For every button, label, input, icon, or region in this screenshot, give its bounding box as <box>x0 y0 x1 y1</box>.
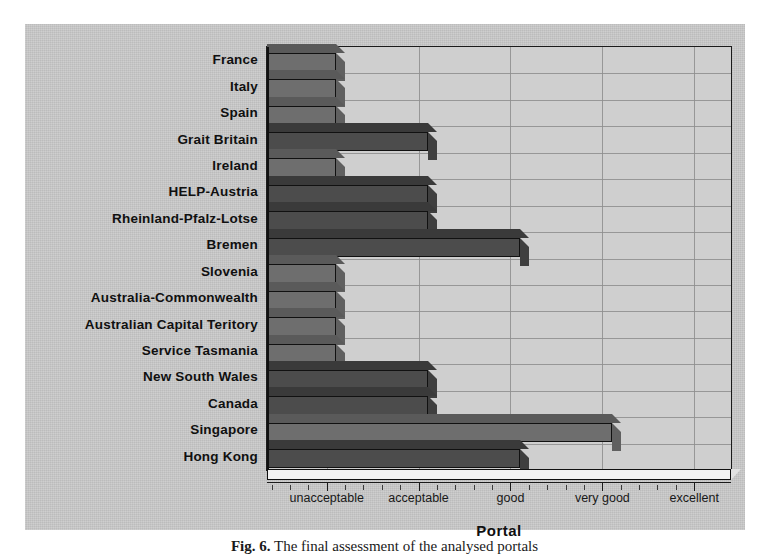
x-tick-minor <box>400 485 401 490</box>
bar-side-face <box>612 423 621 451</box>
category-label: HELP-Austria <box>169 185 258 199</box>
bar-front-face <box>267 344 336 363</box>
x-tick-label: acceptable <box>388 491 448 505</box>
bar-front-face <box>267 396 428 415</box>
category-label: Singapore <box>190 423 258 437</box>
category-label: Canada <box>208 397 258 411</box>
category-label: Spain <box>220 106 258 120</box>
bar <box>267 449 520 468</box>
x-tick-minor <box>621 485 622 490</box>
x-tick-minor <box>639 485 640 490</box>
x-tick-minor <box>363 485 364 490</box>
category-label: France <box>213 53 258 67</box>
bar-top-face <box>267 176 437 185</box>
y-axis-line <box>267 47 269 470</box>
bar <box>267 106 336 125</box>
category-label: Rheinland-Pfalz-Lotse <box>112 212 258 226</box>
category-label: Ireland <box>212 159 258 173</box>
x-tick-minor <box>455 485 456 490</box>
bar-top-face <box>267 149 345 158</box>
bar-top-face <box>267 335 345 344</box>
x-tick-minor <box>657 485 658 490</box>
bar-top-face <box>267 414 621 423</box>
bar-front-face <box>267 449 520 468</box>
x-tick-minor <box>272 485 273 490</box>
x-tick-major <box>327 482 328 491</box>
bar-front-face <box>267 79 336 98</box>
category-label: Grait Britain <box>177 133 258 147</box>
bar-front-face <box>267 423 612 442</box>
x-tick-minor <box>676 485 677 490</box>
bar-front-face <box>267 53 336 72</box>
bar-front-face <box>267 291 336 310</box>
category-label: Hong Kong <box>183 450 258 464</box>
x-axis-line <box>267 482 731 483</box>
x-tick-minor <box>529 485 530 490</box>
category-label: New South Wales <box>143 370 258 384</box>
bar-top-face <box>267 229 529 238</box>
x-tick-minor <box>547 485 548 490</box>
bar <box>267 53 336 72</box>
caption-text: The final assessment of the analysed por… <box>271 538 539 554</box>
bar <box>267 396 428 415</box>
caption-label: Fig. 6. <box>231 538 271 554</box>
bar <box>267 344 336 363</box>
bar-front-face <box>267 132 428 151</box>
bar <box>267 238 520 257</box>
category-label: Australian Capital Teritory <box>85 318 258 332</box>
x-tick-major <box>419 482 420 491</box>
x-tick-major <box>602 482 603 491</box>
bar-front-face <box>267 238 520 257</box>
bar-top-face <box>267 387 437 396</box>
bar-top-face <box>267 123 437 132</box>
bar-top-face <box>267 70 345 79</box>
bar <box>267 79 336 98</box>
bar-top-face <box>267 97 345 106</box>
x-tick-minor <box>437 485 438 490</box>
bar <box>267 370 428 389</box>
x-tick-minor <box>474 485 475 490</box>
x-tick-label: very good <box>575 491 630 505</box>
x-tick-minor <box>290 485 291 490</box>
bar <box>267 158 336 177</box>
category-label: Service Tasmania <box>142 344 258 358</box>
bar <box>267 211 428 230</box>
bar-chart: FranceItalySpainGrait BritainIrelandHELP… <box>266 46 732 471</box>
bar-top-face <box>267 308 345 317</box>
bar-side-face <box>428 132 437 160</box>
x-tick-major <box>694 482 695 491</box>
bar-side-face <box>520 238 529 266</box>
category-label: Bremen <box>207 238 258 252</box>
bar-top-face <box>267 282 345 291</box>
category-label: Italy <box>230 80 258 94</box>
bar-front-face <box>267 264 336 283</box>
bar-top-face <box>267 361 437 370</box>
x-tick-minor <box>382 485 383 490</box>
x-tick-label: unacceptable <box>290 491 364 505</box>
bar-front-face <box>267 317 336 336</box>
figure-panel: FranceItalySpainGrait BritainIrelandHELP… <box>25 24 745 530</box>
x-tick-minor <box>308 485 309 490</box>
x-tick-minor <box>492 485 493 490</box>
figure-caption: Fig. 6. The final assessment of the anal… <box>0 538 769 555</box>
x-axis-ticks: Portal unacceptableacceptablegoodvery go… <box>267 470 731 500</box>
category-label: Slovenia <box>201 265 258 279</box>
x-tick-minor <box>566 485 567 490</box>
category-label: Australia-Commonwealth <box>91 291 258 305</box>
axis-base-cap <box>731 469 741 480</box>
bar-front-face <box>267 185 428 204</box>
x-tick-minor <box>345 485 346 490</box>
bar-top-face <box>267 440 529 449</box>
bar-front-face <box>267 106 336 125</box>
x-tick-label: excellent <box>670 491 719 505</box>
bar-top-face <box>267 255 345 264</box>
x-axis-title: Portal <box>267 522 731 539</box>
bar-front-face <box>267 158 336 177</box>
bar-top-face <box>267 202 437 211</box>
bar <box>267 132 428 151</box>
x-tick-minor <box>584 485 585 490</box>
bar-front-face <box>267 370 428 389</box>
category-axis-labels: FranceItalySpainGrait BritainIrelandHELP… <box>32 47 262 470</box>
bar <box>267 185 428 204</box>
x-tick-label: good <box>497 491 525 505</box>
